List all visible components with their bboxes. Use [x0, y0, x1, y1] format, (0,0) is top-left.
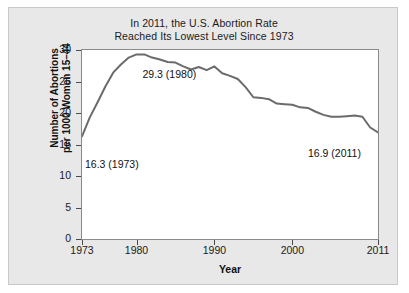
y-tick-label: 10 — [41, 169, 71, 181]
end-annotation: 16.9 (2011) — [308, 147, 361, 159]
y-tick-label: 5 — [41, 201, 71, 213]
chart-figure: In 2011, the U.S. Abortion Rate Reached … — [0, 0, 409, 293]
y-tick-label: 15 — [41, 138, 71, 150]
x-tick-mark — [292, 240, 293, 245]
y-tick-label: 0 — [41, 232, 71, 244]
y-tick-label: 20 — [41, 106, 71, 118]
x-tick-mark — [378, 240, 379, 245]
x-tick-mark — [137, 240, 138, 245]
y-tick-label: 25 — [41, 75, 71, 87]
peak-annotation: 29.3 (1980) — [143, 68, 197, 80]
chart-panel: In 2011, the U.S. Abortion Rate Reached … — [8, 7, 398, 285]
start-annotation: 16.3 (1973) — [85, 158, 139, 170]
data-line-svg — [82, 50, 378, 239]
x-tick-label: 1990 — [194, 244, 234, 256]
abortion-rate-line — [82, 54, 378, 136]
x-tick-label: 2000 — [272, 244, 312, 256]
x-tick-label: 2011 — [358, 244, 398, 256]
x-tick-label: 1973 — [62, 244, 102, 256]
x-tick-label: 1980 — [117, 244, 157, 256]
plot-area — [81, 49, 379, 240]
x-axis-label: Year — [81, 263, 379, 275]
y-tick-label: 30 — [41, 43, 71, 55]
x-tick-mark — [214, 240, 215, 245]
x-tick-mark — [82, 240, 83, 245]
